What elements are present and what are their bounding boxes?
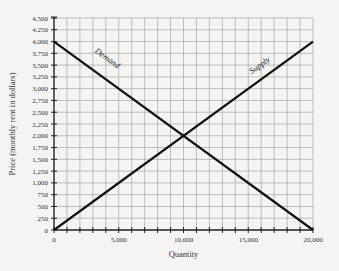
- y-tick-label: 3,750: [32, 50, 48, 58]
- y-tick-label: 3,500: [32, 62, 48, 70]
- x-tick-label: 15,000: [239, 236, 259, 244]
- x-tick-label: 5,000: [111, 236, 127, 244]
- y-tick-label: 3,250: [32, 73, 48, 81]
- x-axis-title: Quantity: [169, 249, 199, 259]
- y-tick-label: 4,500: [32, 15, 48, 23]
- y-tick-label: 1,250: [32, 168, 48, 176]
- y-axis-title: Price (monthly rent in dollars): [7, 72, 17, 175]
- x-tick-label: 10,000: [174, 236, 194, 244]
- y-tick-label: 750: [38, 191, 49, 199]
- y-tick-label: 4,000: [32, 38, 48, 46]
- y-tick-label: 2,750: [32, 97, 48, 105]
- y-tick-label: 4,250: [32, 26, 48, 34]
- x-tick-label: 20,000: [303, 236, 323, 244]
- y-tick-label: 500: [38, 203, 49, 211]
- demand-label: Demand: [92, 45, 123, 71]
- gridlines: [54, 18, 313, 230]
- ticks: 02505007501,0001,2501,5001,7502,0002,250…: [32, 15, 323, 245]
- y-tick-label: 1,000: [32, 179, 48, 187]
- y-tick-label: 1,500: [32, 156, 48, 164]
- x-tick-label: 0: [52, 236, 56, 244]
- supply-demand-chart: 02505007501,0001,2501,5001,7502,0002,250…: [0, 0, 339, 271]
- y-tick-label: 3,000: [32, 85, 48, 93]
- y-tick-label: 2,000: [32, 132, 48, 140]
- y-tick-label: 2,250: [32, 121, 48, 129]
- y-tick-label: 250: [38, 215, 49, 223]
- y-tick-label: 0: [45, 227, 49, 235]
- y-tick-label: 1,750: [32, 144, 48, 152]
- y-tick-label: 2,500: [32, 109, 48, 117]
